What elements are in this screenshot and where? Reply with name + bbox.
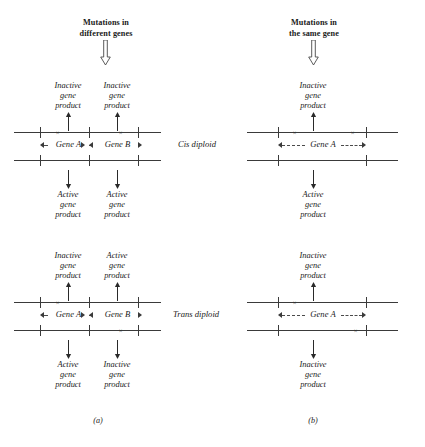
arrow-left-icon (89, 312, 93, 318)
arrow-down-icon (64, 170, 73, 189)
product-label: Inactive gene product (281, 251, 345, 282)
gene-boundary-tick (366, 127, 367, 138)
chromosome-lower (247, 155, 398, 167)
arrow-down-icon (64, 340, 73, 359)
product-line3: product (281, 101, 345, 111)
gene-boundary-tick (40, 155, 41, 166)
chromosome-line (247, 330, 398, 331)
block-arrow-down-icon (308, 40, 319, 66)
panel-a-title-line2: different genes (41, 29, 171, 40)
gene-boundary-tick (138, 127, 139, 138)
product-line2: gene (85, 91, 149, 101)
product-line2: gene (85, 261, 149, 271)
mutation-marker: × (54, 298, 61, 308)
gene-label: Gene A (304, 308, 342, 320)
config-label-cis: Cis diploid (178, 139, 216, 149)
arrow-down-icon (309, 170, 318, 189)
chromosome-lower (14, 155, 161, 167)
product-line1: Inactive (281, 251, 345, 261)
gene-extent-line (341, 315, 362, 317)
mutation-marker: × (291, 298, 298, 308)
gene-boundary-tick (89, 325, 90, 336)
gene-extent-line (341, 145, 362, 147)
product-line1: Inactive (281, 360, 345, 370)
mutation-marker: × (54, 128, 61, 138)
gene-span-labels: Gene A Gene B (14, 309, 161, 321)
panel-b-title-line2: the same gene (249, 29, 379, 40)
product-line3: product (85, 210, 149, 220)
arrow-down-icon (113, 340, 122, 359)
chromosome-line (247, 160, 398, 161)
gene-boundary-tick (138, 297, 139, 308)
product-line2: gene (281, 261, 345, 271)
gene-extent-line (282, 315, 305, 317)
product-line2: gene (281, 91, 345, 101)
chromosome-line (247, 132, 398, 133)
panel-b-title-line1: Mutations in (249, 18, 379, 29)
gene-span-labels: Gene A (247, 309, 398, 321)
panel-a-title: Mutations in different genes (41, 18, 171, 39)
mutation-marker: × (117, 326, 124, 336)
mutation-marker: × (349, 128, 356, 138)
gene-boundary-tick (366, 297, 367, 308)
arrow-right-icon (362, 142, 366, 148)
arrow-right-icon (362, 312, 366, 318)
arrow-right-icon (138, 312, 142, 318)
gene-span-labels: Gene A (247, 139, 398, 151)
product-line3: product (85, 380, 149, 390)
chromosome-line (247, 302, 398, 303)
product-line1: Active (281, 190, 345, 200)
figure-caption-b: (b) (298, 416, 328, 425)
gene-boundary-tick (366, 325, 367, 336)
panel-b-title: Mutations in the same gene (249, 18, 379, 39)
block-arrow-down-icon (100, 40, 111, 66)
gene-boundary-tick (138, 325, 139, 336)
product-label: Inactive gene product (281, 360, 345, 391)
figure-caption-a: (a) (83, 416, 113, 425)
product-line1: Inactive (281, 81, 345, 91)
arrow-right-icon (81, 142, 85, 148)
gene-boundary-tick (138, 155, 139, 166)
figure-root: { "figure": { "panels": [ { "id": "a", "… (0, 0, 425, 447)
product-line1: Inactive (85, 81, 149, 91)
arrow-down-icon (309, 340, 318, 359)
product-line2: gene (85, 200, 149, 210)
gene-boundary-tick (89, 155, 90, 166)
gene-boundary-tick (278, 127, 279, 138)
product-line2: gene (281, 370, 345, 380)
config-label-trans: Trans diploid (173, 309, 219, 319)
product-line3: product (281, 271, 345, 281)
product-line1: Active (85, 190, 149, 200)
gene-boundary-tick (89, 297, 90, 308)
product-label: Inactive gene product (85, 360, 149, 391)
product-label: Inactive gene product (85, 81, 149, 112)
gene-boundary-tick (89, 127, 90, 138)
arrow-down-icon (113, 170, 122, 189)
product-line2: gene (281, 200, 345, 210)
product-line3: product (85, 271, 149, 281)
gene-label: Gene B (97, 138, 138, 150)
gene-boundary-tick (40, 325, 41, 336)
mutation-marker: × (117, 128, 124, 138)
panel-a-title-line1: Mutations in (41, 18, 171, 29)
arrow-left-icon (89, 142, 93, 148)
gene-boundary-tick (40, 297, 41, 308)
arrow-right-icon (81, 312, 85, 318)
gene-span-labels: Gene A Gene B (14, 139, 161, 151)
gene-boundary-tick (278, 155, 279, 166)
product-line3: product (85, 101, 149, 111)
product-label: Inactive gene product (281, 81, 345, 112)
chromosome-lower: × (247, 325, 398, 337)
product-label: Active gene product (281, 190, 345, 221)
gene-boundary-tick (40, 127, 41, 138)
gene-boundary-tick (278, 325, 279, 336)
product-line1: Inactive (85, 360, 149, 370)
product-line1: Active (85, 251, 149, 261)
chromosome-lower: × (14, 325, 161, 337)
product-line3: product (281, 380, 345, 390)
gene-boundary-tick (366, 155, 367, 166)
arrow-right-icon (138, 142, 142, 148)
product-line3: product (281, 210, 345, 220)
gene-label: Gene B (97, 308, 138, 320)
gene-label: Gene A (304, 138, 342, 150)
